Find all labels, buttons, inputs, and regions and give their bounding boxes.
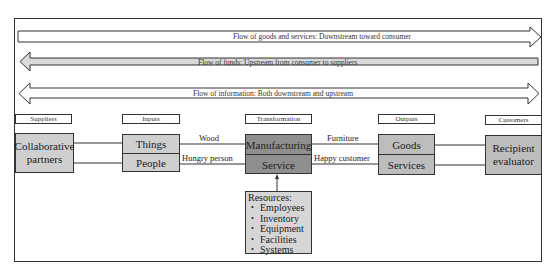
outputs-services: Services	[379, 155, 434, 175]
outputs-box: Goods Services	[378, 134, 435, 175]
transformation-service: Service	[246, 155, 311, 174]
resources-arrow-head	[275, 174, 279, 179]
goods-flow-label: Flow of goods and services: Downstream t…	[233, 32, 411, 41]
transformation-box: Manufacturing Service	[245, 134, 312, 174]
column-label-outputs: Outputs	[378, 114, 435, 124]
outputs-goods: Goods	[379, 135, 434, 155]
inputs-people: People	[123, 154, 179, 172]
resources-box: Resources: Employees Inventory Equipment…	[245, 191, 312, 254]
link-label-happy-customer: Happy customer	[314, 153, 370, 163]
suppliers-line2: partners	[27, 153, 62, 166]
inputs-things: Things	[123, 135, 179, 154]
suppliers-line1: Collaborative	[15, 140, 75, 153]
customers-line1: Recipient	[492, 142, 534, 155]
link-label-furniture: Furniture	[327, 133, 359, 143]
resources-list: Employees Inventory Equipment Facilities…	[246, 203, 311, 256]
resource-item: Equipment	[260, 224, 311, 235]
column-label-inputs: Inputs	[122, 114, 180, 124]
information-flow-label: Flow of information: Both downstream and…	[193, 89, 353, 98]
customers-line2: evaluator	[493, 155, 534, 168]
column-label-suppliers: Suppliers	[15, 114, 72, 124]
customers-box: Recipient evaluator	[485, 135, 542, 175]
transformation-manufacturing: Manufacturing	[246, 135, 311, 155]
column-label-transformation: Transformation	[245, 114, 312, 124]
inputs-box: Things People	[122, 134, 180, 172]
resource-item: Systems	[260, 245, 311, 256]
link-label-hungry-person: Hungry person	[182, 153, 233, 163]
column-label-customers: Customers	[485, 115, 542, 125]
link-label-wood: Wood	[199, 133, 219, 143]
suppliers-box: Collaborative partners	[15, 133, 74, 173]
resource-item: Employees	[260, 203, 311, 214]
funds-flow-label: Flow of funds: Upstream from consumer to…	[198, 58, 357, 67]
